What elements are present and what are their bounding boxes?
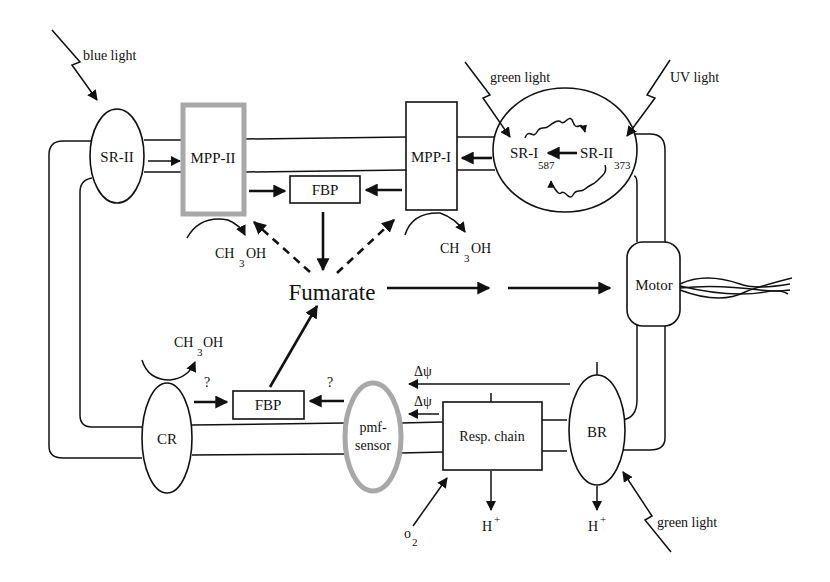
svg-text:CR: CR xyxy=(157,431,177,447)
svg-text:FBP: FBP xyxy=(255,397,282,413)
sr-i-sr-ii-complex: SR-I 587 SR-II 373 xyxy=(493,88,637,212)
delta-psi-upper: Δψ xyxy=(414,364,432,379)
fbp-box-bottom: FBP xyxy=(233,391,304,419)
svg-text:+: + xyxy=(600,513,606,525)
svg-text:pmf-: pmf- xyxy=(359,420,387,435)
svg-text:373: 373 xyxy=(614,159,631,171)
svg-text:o: o xyxy=(404,526,411,541)
methanol-mpp2: CH 3 OH xyxy=(187,219,266,269)
proton-br: H + xyxy=(588,513,606,534)
svg-text:FBP: FBP xyxy=(312,182,339,198)
svg-text:green light: green light xyxy=(490,70,550,85)
green-light-stimulus-bottom: green light xyxy=(623,472,717,552)
svg-text:H: H xyxy=(588,519,598,534)
svg-text:H: H xyxy=(482,519,492,534)
svg-text:CH: CH xyxy=(440,241,459,256)
methanol-mpp1: CH 3 OH xyxy=(405,213,491,264)
arrow-fbp-to-fumarate-bottom xyxy=(270,306,317,387)
svg-text:OH: OH xyxy=(203,335,223,350)
svg-text:MPP-I: MPP-I xyxy=(411,149,451,165)
delta-psi-lower: Δψ xyxy=(414,394,432,409)
svg-text:OH: OH xyxy=(471,241,491,256)
svg-text:UV light: UV light xyxy=(670,70,719,85)
oxygen-label: o 2 xyxy=(404,526,418,548)
svg-text:587: 587 xyxy=(538,159,555,171)
dashed-arrow-to-mpp1 xyxy=(337,220,394,273)
fbp-box-top: FBP xyxy=(290,176,360,203)
svg-text:blue light: blue light xyxy=(83,48,136,63)
respiratory-chain-box: Resp. chain xyxy=(443,393,542,470)
svg-text:MPP-II: MPP-II xyxy=(190,150,235,166)
svg-text:BR: BR xyxy=(587,424,607,440)
svg-text:2: 2 xyxy=(412,536,418,548)
mpp-i-box: MPP-I xyxy=(406,102,457,210)
question-mark-left: ? xyxy=(204,375,210,390)
svg-text:3: 3 xyxy=(464,252,470,264)
question-mark-right: ? xyxy=(327,375,333,390)
svg-text:Resp. chain: Resp. chain xyxy=(459,429,524,444)
fumarate-label: Fumarate xyxy=(289,280,376,305)
cr-receptor: CR xyxy=(142,383,192,493)
mpp-ii-box: MPP-II xyxy=(183,105,244,214)
svg-text:sensor: sensor xyxy=(355,438,391,453)
methanol-cr: CH 3 OH xyxy=(142,335,223,380)
pmf-sensor: pmf- sensor xyxy=(345,383,401,491)
svg-text:CH: CH xyxy=(174,335,193,350)
svg-text:SR-II: SR-II xyxy=(580,145,613,161)
br-bacteriorhodopsin: BR xyxy=(569,362,625,485)
svg-text:Motor: Motor xyxy=(635,277,673,293)
flagellar-motor: Motor xyxy=(627,242,680,326)
svg-text:SR-II: SR-II xyxy=(100,149,133,165)
svg-text:3: 3 xyxy=(239,257,245,269)
svg-text:SR-I: SR-I xyxy=(510,145,538,161)
arrow-o2-to-resp xyxy=(413,478,447,526)
proton-resp: H + xyxy=(482,513,500,534)
svg-text:OH: OH xyxy=(246,246,266,261)
sr-ii-receptor-left: SR-II xyxy=(90,109,144,203)
signal-transduction-diagram: SR-II MPP-II FBP MPP-I SR-I 587 SR-II 37… xyxy=(0,0,830,582)
blue-light-stimulus: blue light xyxy=(52,30,136,100)
svg-text:+: + xyxy=(494,513,500,525)
uv-light-stimulus: UV light xyxy=(627,60,719,136)
svg-text:green light: green light xyxy=(657,515,717,530)
flagellum-icon xyxy=(680,278,792,298)
svg-text:CH: CH xyxy=(215,246,234,261)
